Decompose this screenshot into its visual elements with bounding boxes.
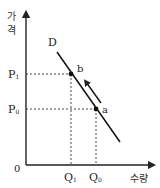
demand-curve — [57, 52, 120, 142]
demand-diagram: 가 격 수량 0 D b a P1 P0 Q1 Q0 — [0, 0, 160, 188]
p1-label: P1 — [8, 68, 19, 81]
x-axis-label: 수량 — [130, 173, 148, 184]
point-a-label: a — [102, 104, 108, 115]
origin-label: 0 — [14, 163, 20, 174]
q1-label: Q1 — [64, 171, 77, 184]
movement-arrow — [86, 82, 101, 103]
y-axis-label-1: 가 — [7, 11, 16, 22]
q0-label: Q0 — [89, 171, 102, 184]
demand-curve-label: D — [48, 36, 57, 49]
p0-label: P0 — [8, 103, 19, 116]
point-a — [94, 107, 99, 112]
point-b-label: b — [77, 63, 83, 74]
y-axis-label-2: 격 — [7, 24, 16, 36]
point-b — [69, 72, 74, 77]
